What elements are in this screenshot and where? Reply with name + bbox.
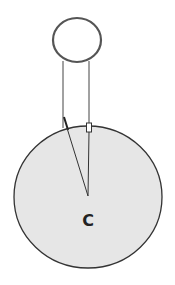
small-circle <box>53 18 101 62</box>
right-marker <box>87 123 92 132</box>
large-circle <box>14 126 162 268</box>
center-label: C <box>80 211 96 231</box>
diagram-canvas <box>0 0 175 285</box>
